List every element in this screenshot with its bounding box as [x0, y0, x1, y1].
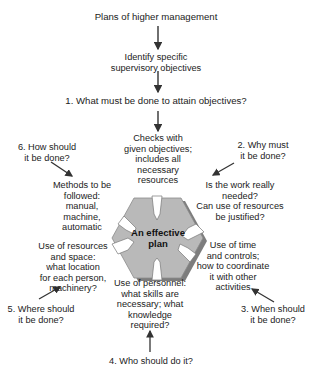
identify-objectives-line2: supervisory objectives: [0, 63, 312, 74]
answer-how-line: automatic: [42, 222, 122, 233]
arrow-q6-to-how: [51, 162, 72, 176]
answer-who: Use of personnel: what skills are necess…: [110, 278, 190, 331]
answer-why-line: needed?: [190, 191, 290, 202]
answer-when-line: how to coordinate: [188, 261, 278, 272]
answer-how-line: machine,: [42, 212, 122, 223]
answer-where-line: and space:: [28, 252, 118, 263]
answer-what-line: resources: [118, 175, 198, 186]
identify-objectives-line1: Identify specific: [0, 52, 312, 63]
answer-who-line: Use of personnel:: [110, 278, 190, 289]
question-5-where: 5. Where should it be done?: [4, 304, 78, 325]
answer-why: Is the work really needed? Can use of re…: [190, 180, 290, 222]
answer-where-line: for each person,: [28, 273, 118, 284]
answer-when-line: and controls;: [188, 251, 278, 262]
answer-who-line: knowledge: [110, 310, 190, 321]
question-6-line: it be done?: [12, 153, 82, 164]
question-2-line: 2. Why must: [228, 140, 298, 151]
answer-when-line: it with other: [188, 272, 278, 283]
answer-why-line: be justified?: [190, 212, 290, 223]
answer-who-line: what skills are: [110, 289, 190, 300]
answer-how-line: Methods to be: [42, 180, 122, 191]
question-2-line: it be done?: [228, 151, 298, 162]
question-5-line: it be done?: [4, 315, 78, 326]
answer-when-line: Use of time: [188, 240, 278, 251]
answer-who-line: required?: [110, 320, 190, 331]
answer-how-line: manual,: [42, 201, 122, 212]
answer-where-line: Use of resources: [28, 241, 118, 252]
answer-what-line: given objectives;: [118, 144, 198, 155]
answer-where-line: machinery?: [28, 283, 118, 294]
answer-what: Checks with given objectives; includes a…: [118, 133, 198, 186]
question-1-what: 1. What must be done to attain objective…: [0, 96, 312, 107]
answer-how-line: followed:: [42, 191, 122, 202]
answer-what-line: includes all: [118, 154, 198, 165]
plans-higher-management: Plans of higher management: [0, 12, 312, 23]
arrow-q2-to-why: [213, 163, 234, 175]
question-6-line: 6. How should: [12, 142, 82, 153]
answer-why-line: Is the work really: [190, 180, 290, 191]
answer-where: Use of resources and space: what locatio…: [28, 241, 118, 294]
center-label: An effective plan: [117, 228, 199, 249]
answer-who-line: necessary; what: [110, 299, 190, 310]
center-label-line: plan: [117, 239, 199, 250]
answer-when-line: activities: [188, 282, 278, 293]
answer-why-line: Can use of resources: [190, 201, 290, 212]
center-label-line: An effective: [117, 228, 199, 239]
answer-what-line: necessary: [118, 165, 198, 176]
question-4-who: 4. Who should do it?: [0, 356, 302, 367]
identify-objectives: Identify specific supervisory objectives: [0, 52, 312, 73]
question-6-how: 6. How should it be done?: [12, 142, 82, 163]
question-2-why: 2. Why must it be done?: [228, 140, 298, 161]
answer-how: Methods to be followed: manual, machine,…: [42, 180, 122, 233]
question-3-when: 3. When should it be done?: [236, 304, 310, 325]
answer-when: Use of time and controls; how to coordin…: [188, 240, 278, 293]
question-3-line: 3. When should: [236, 304, 310, 315]
answer-where-line: what location: [28, 262, 118, 273]
question-3-line: it be done?: [236, 315, 310, 326]
answer-what-line: Checks with: [118, 133, 198, 144]
question-5-line: 5. Where should: [4, 304, 78, 315]
